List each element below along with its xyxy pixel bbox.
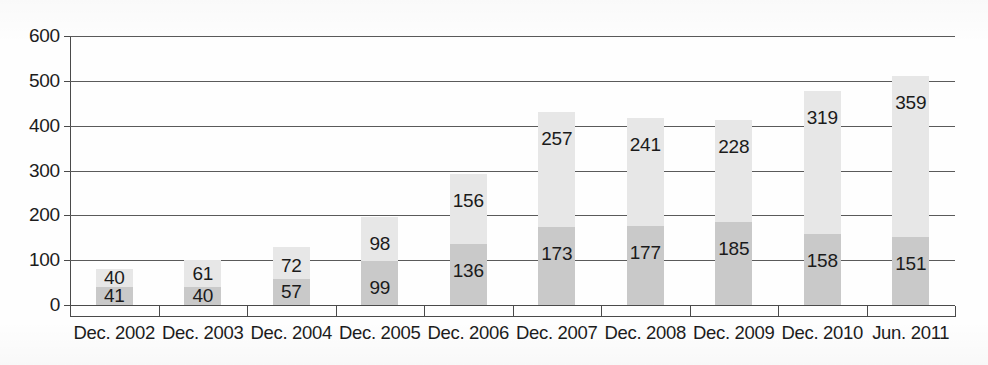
bar-label-lower: 99	[355, 278, 404, 297]
bar-label-lower: 173	[532, 244, 581, 263]
bar-label-lower: 158	[798, 251, 847, 270]
x-axis-label: Dec. 2007	[513, 322, 602, 344]
x-tick	[247, 306, 248, 317]
x-axis-label: Dec. 2006	[424, 322, 513, 344]
bar-label-upper: 61	[178, 264, 227, 283]
bar-label-upper: 257	[532, 129, 581, 148]
bar-label-upper: 241	[621, 135, 670, 154]
y-axis-label: 300	[2, 160, 60, 182]
bar-label-upper: 228	[709, 137, 758, 156]
x-axis-label: Dec. 2003	[159, 322, 248, 344]
x-axis-label: Dec. 2005	[336, 322, 425, 344]
bar-label-upper: 359	[886, 93, 935, 112]
x-tick	[513, 306, 514, 317]
bar-segment-lower	[627, 226, 664, 305]
x-tick	[601, 306, 602, 317]
y-axis-label: 400	[2, 115, 60, 137]
x-tick	[867, 306, 868, 317]
bar-label-lower: 41	[90, 286, 139, 305]
y-axis-label: 200	[2, 204, 60, 226]
bar-label-lower: 177	[621, 243, 670, 262]
y-axis-label: 100	[2, 249, 60, 271]
bar-label-lower: 57	[267, 282, 316, 301]
bar-label-lower: 40	[178, 286, 227, 305]
x-tick	[778, 306, 779, 317]
x-tick	[424, 306, 425, 317]
bar-label-upper: 319	[798, 108, 847, 127]
y-axis-label: 500	[2, 70, 60, 92]
x-tick	[955, 306, 956, 317]
gridline-500	[70, 81, 955, 82]
bar-label-lower: 151	[886, 254, 935, 273]
bar-label-upper: 72	[267, 256, 316, 275]
x-tick	[159, 306, 160, 317]
x-axis-label: Dec. 2004	[247, 322, 336, 344]
bar-segment-lower	[538, 227, 575, 305]
x-axis-label: Dec. 2002	[70, 322, 159, 344]
x-axis-label: Dec. 2008	[601, 322, 690, 344]
y-axis-labels: 6005004003002001000	[0, 0, 60, 365]
x-axis-label: Jun. 2011	[867, 322, 956, 344]
x-tick	[70, 306, 71, 317]
y-axis-label: 600	[2, 25, 60, 47]
gridline-600	[70, 36, 955, 37]
x-axis-label: Dec. 2009	[690, 322, 779, 344]
bar-label-upper: 40	[90, 268, 139, 287]
x-axis-label: Dec. 2010	[778, 322, 867, 344]
bar-label-lower: 136	[444, 261, 493, 280]
bar-label-lower: 185	[709, 239, 758, 258]
y-axis-label: 0	[2, 294, 60, 316]
x-tick	[690, 306, 691, 317]
bar-segment-lower	[715, 222, 752, 305]
plot-area: 4041614072579899156136257173241177228185…	[70, 36, 955, 305]
bar-label-upper: 98	[355, 234, 404, 253]
stacked-bar-chart: 6005004003002001000 40416140725798991561…	[0, 0, 988, 365]
bar-label-upper: 156	[444, 191, 493, 210]
x-tick	[336, 306, 337, 317]
